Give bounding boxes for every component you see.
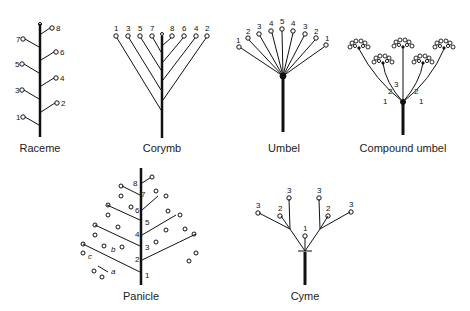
corymb-num: 7: [150, 24, 155, 33]
raceme-num: 1: [16, 113, 21, 122]
panicle-letter: a: [111, 267, 116, 276]
compound-umbel-num: 3: [394, 80, 399, 89]
cyme-num: 1: [303, 224, 308, 233]
panicle-letter: c: [88, 252, 92, 261]
raceme-num: 7: [16, 35, 21, 44]
raceme-num: 6: [60, 48, 65, 57]
corymb-num: 6: [182, 24, 187, 33]
cyme-num: 2: [278, 204, 283, 213]
corymb-num: 4: [194, 24, 199, 33]
panicle-num: 1: [145, 271, 150, 280]
umbel-num: 1: [325, 34, 330, 43]
umbel-num: 1: [236, 36, 241, 45]
raceme-num: 2: [61, 99, 66, 108]
compound-umbel-num: 1: [419, 97, 424, 106]
umbel-num: 2: [314, 27, 319, 36]
cyme-num: 2: [326, 204, 331, 213]
corymb-num: 5: [138, 24, 143, 33]
corymb-num: 1: [114, 24, 119, 33]
raceme-label: Raceme: [0, 142, 95, 154]
panicle-num: 6: [135, 206, 140, 215]
cyme-num: 3: [256, 201, 261, 210]
compound-umbel-label: Compound umbel: [348, 142, 458, 154]
compound-umbel-num: 1: [383, 97, 388, 106]
umbel-num: 4: [269, 19, 274, 28]
panicle-num: 4: [135, 230, 140, 239]
raceme-num: 8: [56, 24, 61, 33]
cyme-num: 3: [349, 200, 354, 209]
panicle-num: 8: [133, 179, 138, 188]
umbel-num: 4: [291, 19, 296, 28]
panicle-letter: b: [111, 245, 116, 254]
raceme-num: 5: [15, 60, 20, 69]
panicle-num: 7: [141, 190, 146, 199]
panicle-diagram: [81, 168, 198, 285]
panicle-num: 5: [145, 218, 150, 227]
panicle-num: 2: [135, 255, 140, 264]
umbel-num: 3: [303, 22, 308, 31]
corymb-label: Corymb: [107, 142, 217, 154]
umbel-num: 3: [257, 22, 262, 31]
cyme-num: 3: [317, 186, 322, 195]
cyme-label: Cyme: [250, 290, 360, 302]
umbel-num: 2: [246, 27, 251, 36]
inflorescence-diagrams: 1 2 3 4 5 6 7 8 1 3 5 7 8 6 4 2: [0, 0, 470, 311]
raceme-num: 3: [15, 86, 20, 95]
compound-umbel-num: 2: [388, 87, 393, 96]
compound-umbel-num: 2: [414, 87, 419, 96]
umbel-label: Umbel: [229, 142, 339, 154]
panicle-num: 3: [145, 243, 150, 252]
corymb-diagram: [114, 33, 209, 139]
panicle-label: Panicle: [86, 290, 196, 302]
corymb-num: 3: [126, 24, 131, 33]
raceme-diagram: [20, 23, 59, 138]
cyme-diagram: [256, 196, 353, 285]
umbel-num: 5: [280, 17, 285, 26]
umbel-diagram: [237, 27, 328, 132]
raceme-num: 4: [60, 74, 65, 83]
corymb-num: 8: [170, 24, 175, 33]
cyme-num: 3: [287, 186, 292, 195]
corymb-num: 2: [205, 24, 210, 33]
